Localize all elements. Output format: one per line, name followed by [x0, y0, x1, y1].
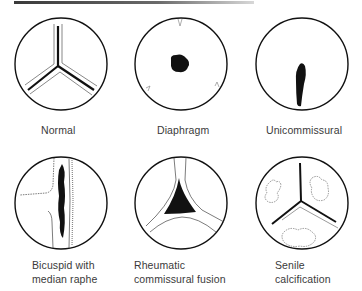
valve-diaphragm	[135, 18, 227, 110]
valve-normal	[15, 18, 107, 110]
label-diaphragm: Diaphragm	[157, 123, 209, 137]
valve-rheumatic	[135, 157, 227, 249]
label-senile: Senile calcification	[275, 258, 331, 286]
valve-bicuspid	[15, 157, 107, 249]
label-normal: Normal	[41, 123, 75, 137]
label-bicuspid: Bicuspid with median raphe	[32, 258, 97, 286]
valve-unicommissural	[256, 18, 348, 110]
label-rheumatic: Rheumatic commissural fusion	[134, 258, 226, 286]
valve-senile	[256, 157, 348, 249]
label-unicommissural: Unicommissural	[266, 123, 342, 137]
valve-diagram	[0, 0, 362, 291]
